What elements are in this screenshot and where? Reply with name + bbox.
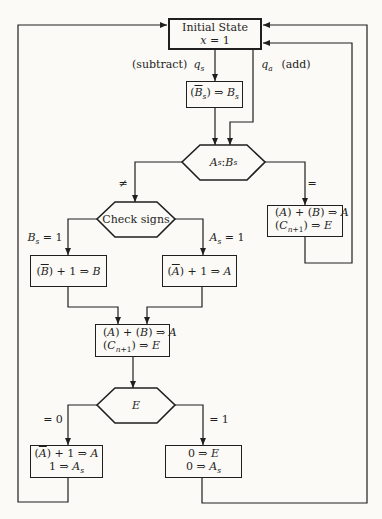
initial-state-box: Initial State x = 1 [168, 18, 262, 50]
edge-compare-eq-to-add-right [265, 162, 305, 205]
clear-e-as-line2: 0 ⇒ As [186, 460, 221, 477]
add-label: (add) [278, 58, 314, 71]
bs-equals-1-label: Bs = 1 [24, 231, 66, 248]
complement-b-box: (B) + 1 ⇒ B [30, 255, 107, 287]
subtract-label: (subtract) [132, 58, 184, 71]
not-equal-label: ≠ [115, 177, 131, 190]
compare-as-bs-label: As : Bs [182, 145, 265, 180]
edge-check-signs-to-complement-a [175, 219, 203, 255]
add-center-line1: (A) + (B) ⇒ A [103, 326, 177, 339]
edge-test-e-zero-to-correct-sign [68, 405, 97, 445]
edge-compare-neq-to-check-signs [135, 162, 182, 202]
equal-label: = [304, 177, 320, 190]
initial-state-line2: x = 1 [200, 34, 229, 47]
clear-e-as-box: 0 ⇒ E 0 ⇒ As [165, 445, 242, 478]
complement-bs-text: (Bs) ⇒ Bs [190, 86, 239, 103]
e-equals-0-label: = 0 [39, 413, 67, 426]
qa-label: qa [256, 58, 278, 75]
add-center-box: (A) + (B) ⇒ A (Cn+1) ⇒ E [95, 324, 170, 357]
edge-complement-a-to-add-center [147, 287, 202, 324]
add-right-line2: (Cn+1) ⇒ E [275, 219, 332, 236]
test-e-label: E [97, 388, 175, 423]
e-equals-1-label: = 1 [205, 413, 233, 426]
clear-e-as-line1: 0 ⇒ E [188, 447, 219, 460]
add-center-line2: (Cn+1) ⇒ E [103, 339, 160, 356]
correct-sign-line2: 1 ⇒ As [49, 460, 84, 477]
edge-check-signs-to-complement-b [68, 219, 97, 255]
correct-sign-line1: (A) + 1 ⇒ A [35, 447, 99, 460]
initial-state-line1: Initial State [182, 21, 248, 34]
edge-complement-b-to-add-center [68, 287, 118, 324]
flowchart-figure: Initial State x = 1 (Bs) ⇒ Bs (A) + (B) … [0, 0, 382, 519]
add-right-line1: (A) + (B) ⇒ A [275, 206, 349, 219]
edge-test-e-one-to-clear [175, 405, 203, 445]
complement-bs-box: (Bs) ⇒ Bs [186, 81, 243, 108]
add-right-box: (A) + (B) ⇒ A (Cn+1) ⇒ E [267, 205, 343, 237]
check-signs-label: Check signs [97, 202, 175, 237]
complement-b-text: (B) + 1 ⇒ B [36, 265, 100, 278]
as-equals-1-label: As = 1 [206, 231, 248, 248]
complement-a-box: (A) + 1 ⇒ A [162, 255, 237, 287]
complement-a-text: (A) + 1 ⇒ A [168, 265, 232, 278]
qs-label: qs [188, 58, 210, 75]
correct-sign-box: (A) + 1 ⇒ A 1 ⇒ As [30, 445, 103, 478]
